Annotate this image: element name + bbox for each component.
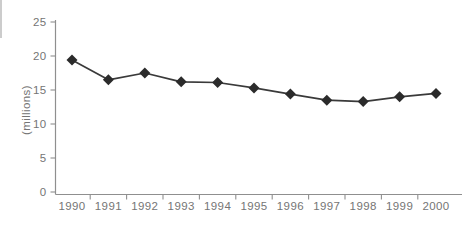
x-tick-label: 1994	[204, 200, 231, 212]
x-tick-label: 1998	[350, 200, 377, 212]
data-point-2000	[431, 88, 442, 99]
chart-plot-area: 0510152025199019911992199319941995199619…	[0, 0, 473, 232]
data-point-1993	[176, 76, 187, 87]
y-tick-label: 15	[33, 84, 47, 96]
x-tick-label: 1996	[277, 200, 304, 212]
y-tick-label: 5	[40, 152, 47, 164]
data-point-1992	[139, 68, 150, 79]
y-axis-title: (millions)	[20, 85, 32, 135]
y-tick-label: 25	[33, 16, 47, 28]
line-chart: (millions) 05101520251990199119921993199…	[0, 0, 473, 232]
data-point-1995	[249, 82, 260, 93]
data-point-1996	[285, 89, 296, 100]
data-point-1990	[67, 55, 78, 66]
data-point-1999	[394, 91, 405, 102]
x-tick-label: 1990	[58, 200, 85, 212]
x-tick-label: 1993	[168, 200, 195, 212]
x-tick-label: 1992	[131, 200, 158, 212]
x-tick-label: 1991	[95, 200, 122, 212]
page-edge-artifact	[0, 0, 2, 38]
x-tick-label: 1999	[386, 200, 413, 212]
y-tick-label: 20	[33, 50, 47, 62]
x-tick-label: 1997	[313, 200, 340, 212]
x-tick-label: 2000	[422, 200, 449, 212]
data-point-1997	[321, 95, 332, 106]
y-tick-label: 10	[33, 118, 47, 130]
x-tick-label: 1995	[240, 200, 267, 212]
data-line	[72, 60, 436, 101]
data-point-1998	[358, 96, 369, 107]
data-point-1991	[103, 74, 114, 85]
data-point-1994	[212, 77, 223, 88]
y-tick-label: 0	[40, 186, 47, 198]
